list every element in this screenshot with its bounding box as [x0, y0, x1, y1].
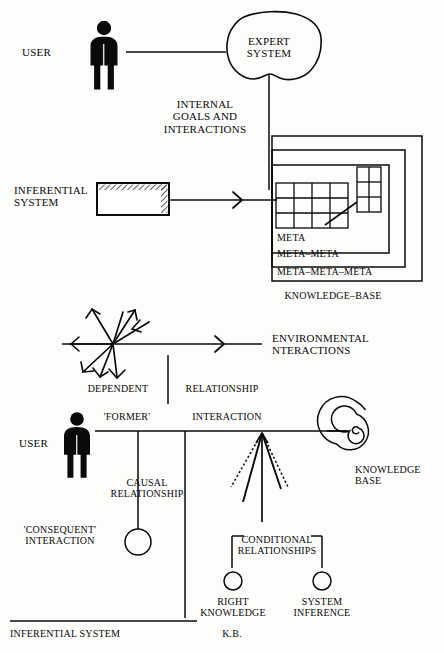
label-relationship: RELATIONSHIP: [186, 383, 259, 394]
system-inference-node: [313, 572, 331, 590]
kb-grid-side: [357, 167, 381, 212]
right-knowledge-node: [224, 572, 242, 590]
label-consequent-interaction: 'CONSEQUENT' INTERACTION: [24, 524, 97, 546]
label-right-knowledge: RIGHT KNOWLEDGE: [200, 596, 266, 618]
label-user-upper: USER: [22, 46, 51, 58]
label-meta-meta-meta: META–META–META: [277, 266, 372, 277]
label-dependent: DEPENDENT: [88, 383, 149, 394]
label-former: 'FORMER': [104, 411, 150, 422]
label-interaction: INTERACTION: [192, 411, 261, 422]
diagram-canvas: USER EXPERT SYSTEM INTERNAL GOALS AND IN…: [0, 0, 444, 653]
label-inferential-system-upper: INFERENTIAL SYSTEM: [14, 184, 88, 209]
label-knowledge-base-lower: KNOWLEDGE BASE: [355, 464, 421, 486]
label-causal-relationship: CAUSAL RELATIONSHIP: [111, 477, 184, 499]
label-kb: K.B.: [222, 628, 242, 639]
label-expert-system: EXPERT SYSTEM: [247, 35, 292, 60]
label-conditional-relationships: CONDITIONAL RELATIONSHIPS: [238, 534, 317, 556]
user-figure-upper: [91, 21, 118, 90]
user-figure-lower: [64, 412, 90, 478]
label-meta-meta: META–META: [277, 248, 339, 259]
label-user-lower: USER: [19, 437, 48, 449]
label-inferential-system-lower: INFERENTIAL SYSTEM: [10, 628, 120, 639]
label-internal-goals: INTERNAL GOALS AND INTERACTIONS: [164, 98, 246, 135]
label-knowledge-base-upper: KNOWLEDGE–BASE: [284, 290, 381, 301]
kb-grid-main: [276, 183, 348, 228]
inferential-system-box: [97, 183, 169, 215]
label-meta: META: [277, 232, 305, 243]
label-system-inference: SYSTEM INFERENCE: [294, 596, 351, 618]
label-environmental-interactions: ENVIRONMENTAL NTERACTIONS: [272, 332, 369, 357]
consequent-interaction-node: [125, 529, 151, 555]
knowledge-base-spiral: [318, 397, 369, 450]
conditional-fan: [231, 433, 288, 522]
